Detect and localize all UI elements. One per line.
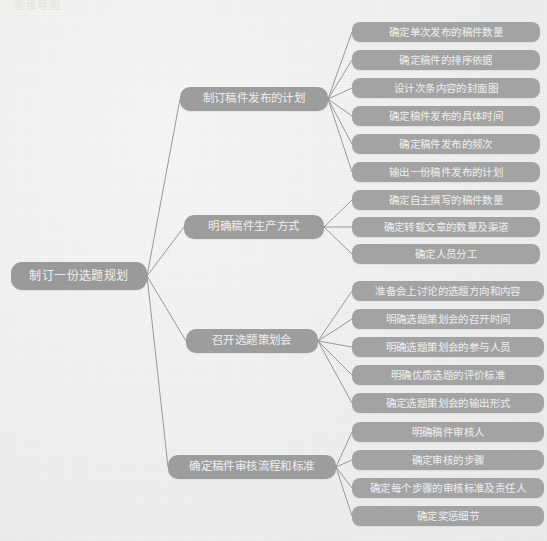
connector-branch-3-leaf-3 — [318, 341, 352, 347]
connector-root-branch-4 — [147, 276, 168, 467]
connector-branch-1-leaf-4 — [328, 99, 352, 116]
leaf-node-1-5-label: 确定稿件发布的频次 — [399, 139, 493, 150]
connector-branch-1-leaf-3 — [328, 88, 352, 99]
leaf-node-3-4-label: 明确优质选题的评价标准 — [391, 370, 505, 381]
connector-branch-3-leaf-2 — [318, 319, 352, 341]
leaf-node-4-3-label: 确定每个步骤的审核标准及责任人 — [370, 483, 526, 494]
connector-branch-2-leaf-3 — [324, 227, 352, 254]
leaf-node-2-1[interactable]: 确定自主撰写的稿件数量 — [352, 190, 540, 210]
connector-root-branch-2 — [147, 227, 184, 276]
leaf-node-3-3[interactable]: 明确选题策划会的参与人员 — [352, 337, 544, 357]
branch-node-2[interactable]: 明确稿件生产方式 — [184, 215, 324, 239]
leaf-node-1-4-label: 确定稿件发布的具体时间 — [389, 111, 503, 122]
branch-node-3[interactable]: 召开选题策划会 — [186, 329, 318, 353]
branch-node-3-label: 召开选题策划会 — [212, 335, 292, 347]
leaf-node-4-4[interactable]: 确定奖惩细节 — [352, 506, 544, 526]
branch-node-1[interactable]: 制订稿件发布的计划 — [180, 87, 328, 111]
connector-branch-3-leaf-5 — [318, 341, 352, 403]
leaf-node-2-1-label: 确定自主撰写的稿件数量 — [389, 195, 503, 206]
leaf-node-4-2[interactable]: 确定审核的步骤 — [352, 450, 544, 470]
leaf-node-1-6[interactable]: 输出一份稿件发布的计划 — [352, 162, 540, 182]
leaf-node-1-6-label: 输出一份稿件发布的计划 — [389, 167, 503, 178]
leaf-node-1-1[interactable]: 确定单次发布的稿件数量 — [352, 22, 540, 42]
leaf-node-4-1[interactable]: 明确稿件审核人 — [352, 422, 544, 442]
connector-branch-4-leaf-1 — [336, 432, 352, 467]
leaf-node-3-1-label: 准备会上讨论的选题方向和内容 — [375, 286, 521, 297]
leaf-node-1-5[interactable]: 确定稿件发布的频次 — [352, 134, 540, 154]
leaf-node-1-2-label: 确定稿件的排序依据 — [399, 55, 493, 66]
leaf-node-1-4[interactable]: 确定稿件发布的具体时间 — [352, 106, 540, 126]
leaf-node-2-3[interactable]: 确定人员分工 — [352, 244, 540, 264]
mindmap-canvas: 思维导图 制订一份选题规划制订稿件发布的计划确定单次发布的稿件数量确定稿件的排序… — [0, 0, 547, 541]
leaf-node-1-1-label: 确定单次发布的稿件数量 — [389, 27, 503, 38]
branch-node-4[interactable]: 确定稿件审核流程和标准 — [168, 455, 336, 479]
leaf-node-3-5[interactable]: 确定选题策划会的输出形式 — [352, 393, 544, 413]
leaf-node-3-2-label: 明确选题策划会的召开时间 — [386, 314, 511, 325]
watermark-label: 思维导图 — [14, 0, 62, 12]
connector-branch-1-leaf-2 — [328, 60, 352, 99]
leaf-node-3-5-label: 确定选题策划会的输出形式 — [386, 398, 511, 409]
connector-branch-4-leaf-4 — [336, 467, 352, 516]
leaf-node-1-3-label: 设计次条内容的封面图 — [394, 83, 498, 94]
leaf-node-3-4[interactable]: 明确优质选题的评价标准 — [352, 365, 544, 385]
connector-branch-4-leaf-2 — [336, 460, 352, 467]
leaf-node-3-2[interactable]: 明确选题策划会的召开时间 — [352, 309, 544, 329]
leaf-node-1-2[interactable]: 确定稿件的排序依据 — [352, 50, 540, 70]
leaf-node-2-2-label: 确定转载文章的数量及渠道 — [384, 222, 509, 233]
connector-root-branch-1 — [147, 99, 180, 276]
mindmap-root-node-label: 制订一份选题规划 — [29, 270, 128, 282]
leaf-node-3-3-label: 明确选题策划会的参与人员 — [386, 342, 511, 353]
connector-branch-3-leaf-4 — [318, 341, 352, 375]
leaf-node-4-3[interactable]: 确定每个步骤的审核标准及责任人 — [352, 478, 544, 498]
leaf-node-2-2[interactable]: 确定转载文章的数量及渠道 — [352, 217, 540, 237]
connector-branch-1-leaf-6 — [328, 99, 352, 172]
connector-branch-1-leaf-5 — [328, 99, 352, 144]
connector-branch-4-leaf-3 — [336, 467, 352, 488]
leaf-node-3-1[interactable]: 准备会上讨论的选题方向和内容 — [352, 281, 544, 301]
branch-node-1-label: 制订稿件发布的计划 — [203, 93, 306, 105]
branch-node-4-label: 确定稿件审核流程和标准 — [189, 461, 314, 473]
leaf-node-4-1-label: 明确稿件审核人 — [412, 427, 485, 438]
connector-branch-3-leaf-1 — [318, 291, 352, 341]
connector-branch-2-leaf-1 — [324, 200, 352, 227]
branch-node-2-label: 明确稿件生产方式 — [208, 221, 299, 233]
leaf-node-2-3-label: 确定人员分工 — [415, 249, 477, 260]
leaf-node-1-3[interactable]: 设计次条内容的封面图 — [352, 78, 540, 98]
connector-branch-1-leaf-1 — [328, 32, 352, 99]
connector-root-branch-3 — [147, 276, 186, 341]
mindmap-root-node[interactable]: 制订一份选题规划 — [11, 262, 147, 290]
leaf-node-4-4-label: 确定奖惩细节 — [417, 511, 479, 522]
leaf-node-4-2-label: 确定审核的步骤 — [412, 455, 485, 466]
